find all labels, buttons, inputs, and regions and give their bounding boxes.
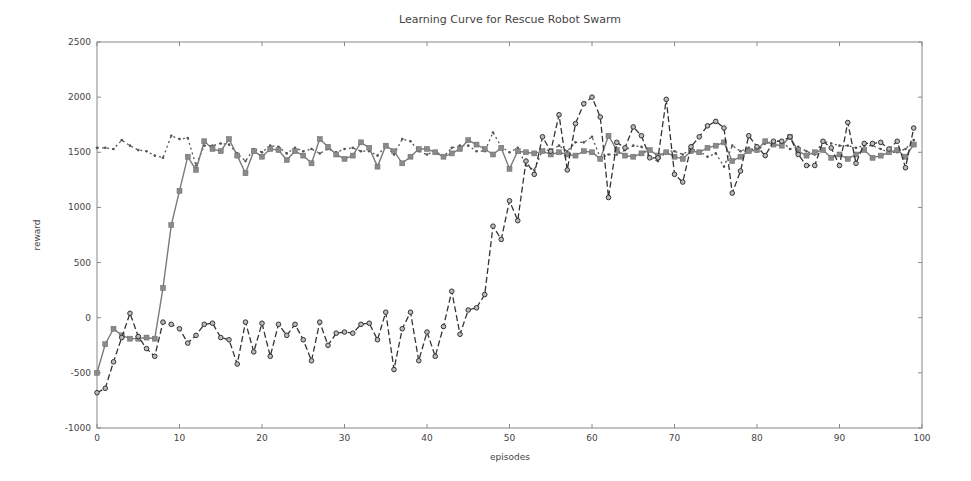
dot-marker [805, 150, 808, 153]
square-marker [532, 151, 537, 156]
circle-marker [392, 367, 397, 372]
dot-marker [533, 169, 536, 172]
circle-marker [557, 112, 562, 117]
square-marker [276, 148, 281, 153]
dot-marker [170, 134, 173, 137]
line-chart: Learning Curve for Rescue Robot Swarm -1… [0, 0, 971, 481]
y-tick-label: -500 [71, 368, 92, 378]
circle-marker [647, 156, 652, 161]
dot-marker [261, 151, 264, 154]
circle-marker [408, 310, 413, 315]
square-marker [540, 149, 545, 154]
square-marker [639, 151, 644, 156]
circle-marker [284, 333, 289, 338]
circle-marker [606, 195, 611, 200]
square-marker [829, 155, 834, 160]
circle-marker [590, 95, 595, 100]
circle-marker [433, 354, 438, 359]
circle-marker [598, 115, 603, 120]
dot-marker [582, 141, 585, 144]
circle-marker [342, 330, 347, 335]
square-marker [845, 156, 850, 161]
x-axis-label: episodes [490, 452, 530, 462]
circle-marker [111, 360, 116, 365]
x-tick-label: 0 [94, 433, 100, 443]
square-marker [383, 143, 388, 148]
circle-marker [95, 390, 100, 395]
square-marker [705, 145, 710, 150]
square-marker [713, 143, 718, 148]
square-marker [878, 153, 883, 158]
x-tick-label: 100 [913, 433, 930, 443]
dot-marker [228, 143, 231, 146]
circle-marker [763, 153, 768, 158]
circle-marker [218, 335, 223, 340]
circle-marker [161, 320, 166, 325]
dot-marker [112, 148, 115, 151]
circle-marker [128, 311, 133, 316]
square-marker [334, 152, 339, 157]
circle-marker [416, 358, 421, 363]
dot-marker [310, 148, 313, 151]
dot-marker [401, 138, 404, 141]
circle-marker [474, 305, 479, 310]
circle-marker [235, 362, 240, 367]
square-marker [746, 149, 751, 154]
y-axis: -1000-50005001000150020002500 [65, 37, 922, 433]
circle-marker [540, 135, 545, 140]
square-marker [524, 150, 529, 155]
circle-marker [697, 135, 702, 140]
chart-container: Learning Curve for Rescue Robot Swarm -1… [0, 0, 971, 481]
x-tick-label: 70 [669, 433, 681, 443]
dot-marker [607, 153, 610, 156]
x-axis: 0102030405060708090100 [94, 42, 931, 443]
square-marker [697, 150, 702, 155]
dot-marker [162, 157, 165, 160]
dot-marker [426, 153, 429, 156]
square-marker [284, 158, 289, 163]
circle-marker [400, 326, 405, 331]
circle-marker [746, 133, 751, 138]
square-marker [111, 326, 116, 331]
square-marker [342, 156, 347, 161]
square-marker [911, 142, 916, 147]
square-marker [177, 188, 182, 193]
circle-marker [466, 308, 471, 313]
y-tick-label: 500 [74, 258, 91, 268]
dot-marker [153, 154, 156, 157]
dot-marker [723, 165, 726, 168]
square-marker [243, 171, 248, 176]
circle-marker [854, 161, 859, 166]
square-marker [301, 153, 306, 158]
square-marker [317, 137, 322, 142]
x-tick-label: 10 [174, 433, 186, 443]
circle-marker [680, 180, 685, 185]
dot-marker [96, 147, 99, 150]
x-tick-label: 20 [256, 433, 268, 443]
dot-marker [879, 148, 882, 151]
circle-marker [491, 224, 496, 229]
circle-marker [515, 218, 520, 223]
square-marker [449, 151, 454, 156]
circle-marker [317, 320, 322, 325]
dot-marker [467, 144, 470, 147]
circle-marker [837, 163, 842, 168]
circle-marker [548, 149, 553, 154]
dot-marker [145, 150, 148, 153]
circle-marker [185, 341, 190, 346]
square-marker [680, 156, 685, 161]
circle-marker [573, 121, 578, 126]
dot-marker [219, 142, 222, 145]
circle-marker [260, 321, 265, 326]
square-marker [144, 335, 149, 340]
dot-marker [351, 147, 354, 150]
x-tick-label: 50 [504, 433, 516, 443]
x-tick-label: 90 [834, 433, 846, 443]
x-tick-label: 40 [421, 433, 433, 443]
dot-marker [591, 136, 594, 139]
square-marker [400, 161, 405, 166]
circle-marker [911, 126, 916, 131]
square-marker [812, 150, 817, 155]
square-marker [375, 164, 380, 169]
square-marker [268, 146, 273, 151]
